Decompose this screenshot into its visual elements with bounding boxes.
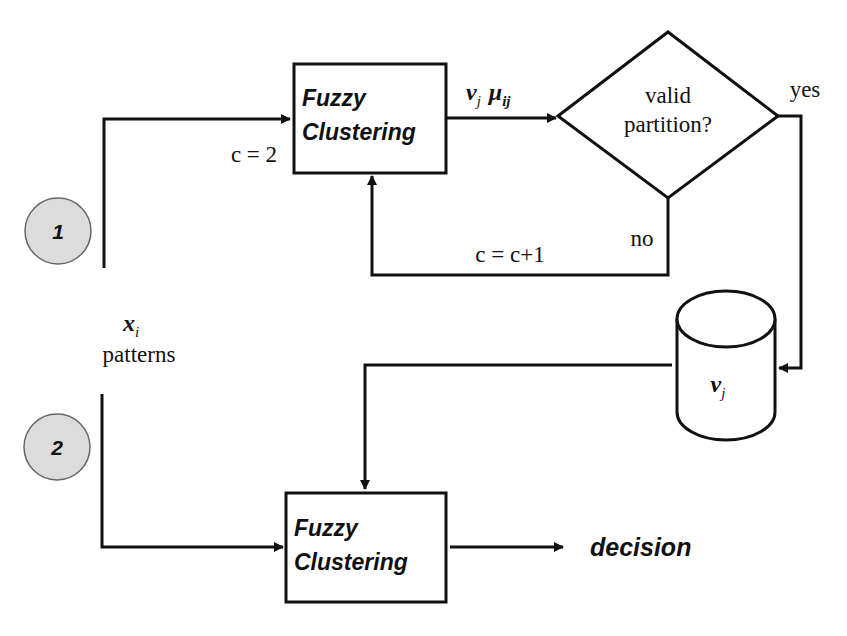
mu-subscript: ij — [502, 93, 511, 109]
input-subscript: i — [135, 324, 139, 340]
input-patterns-label: xi patterns — [103, 310, 176, 367]
v-symbol: v — [466, 79, 477, 105]
yes-label: yes — [790, 77, 821, 102]
storage-to-clustering-arrow — [365, 365, 672, 489]
bottom-box-line2: Clustering — [294, 549, 408, 575]
storage-symbol: v — [711, 371, 722, 397]
step-2-badge: 2 — [24, 414, 90, 480]
step-1-label: 1 — [52, 220, 64, 243]
fuzzy-clustering-box-bottom: Fuzzy Clustering — [286, 493, 446, 602]
prototype-storage-cylinder: vj — [677, 291, 775, 440]
step-1-badge: 1 — [25, 198, 91, 264]
top-box-line2: Clustering — [302, 119, 416, 145]
valid-partition-decision: valid partition? — [558, 32, 778, 198]
mu-symbol: μ — [487, 79, 502, 105]
svg-text:xi: xi — [122, 310, 139, 340]
init-c-label: c = 2 — [231, 142, 277, 167]
patterns-text: patterns — [103, 342, 176, 367]
cluster-output-labels: vjμij — [466, 79, 511, 109]
decision-output-label: decision — [590, 533, 691, 561]
decision-line2: partition? — [624, 112, 712, 137]
step-2-label: 2 — [50, 436, 63, 459]
no-label: no — [631, 226, 654, 251]
bottom-box-line1: Fuzzy — [294, 515, 359, 541]
flowchart-canvas: 1 2 xi patterns c = 2 Fuzzy Clustering v… — [0, 0, 847, 636]
decision-line1: valid — [645, 83, 691, 108]
fuzzy-clustering-box-top: Fuzzy Clustering — [294, 64, 446, 173]
input-symbol: x — [122, 310, 135, 336]
top-box-line1: Fuzzy — [302, 85, 367, 111]
yes-branch-arrow — [778, 116, 801, 368]
input-to-classification-arrow — [102, 394, 283, 547]
increment-c-label: c = c+1 — [475, 242, 544, 267]
